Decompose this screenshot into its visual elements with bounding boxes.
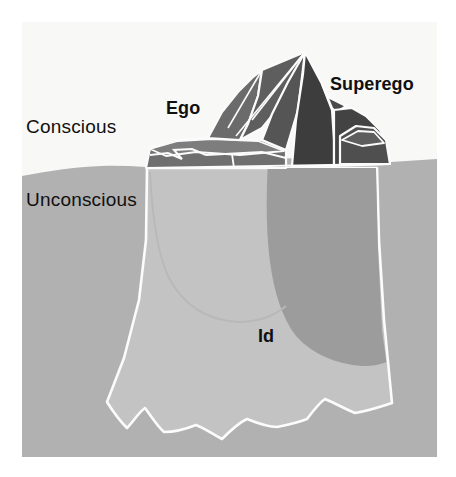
label-unconscious: Unconscious	[26, 190, 137, 209]
label-superego: Superego	[330, 75, 414, 93]
iceberg-diagram: Conscious Unconscious Ego Superego Id	[0, 0, 456, 477]
label-ego: Ego	[166, 99, 200, 117]
label-id: Id	[258, 327, 274, 345]
label-conscious: Conscious	[26, 117, 117, 136]
iceberg-illustration	[0, 0, 456, 477]
